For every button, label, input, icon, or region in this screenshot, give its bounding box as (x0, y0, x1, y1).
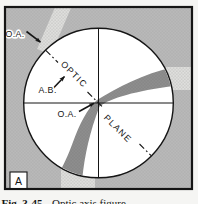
optic-axis-lower-label: O.A. (58, 109, 77, 119)
figure-caption-number: Fig. 3-45. (2, 197, 46, 204)
figure-panel: O.A. OPTIC A.B. O.A. PLANE A Fig. 3-45. … (0, 0, 198, 204)
acute-bisectrix-label: A.B. (39, 85, 57, 95)
panel-letter: A (15, 175, 22, 187)
figure-caption-text: Optic axis figure (52, 197, 126, 204)
stereogram-figure: O.A. OPTIC A.B. O.A. PLANE A Fig. 3-45. … (0, 0, 198, 204)
optic-axis-upper-label: O.A. (6, 29, 25, 39)
figure-caption: Fig. 3-45. Optic axis figure (2, 197, 126, 204)
